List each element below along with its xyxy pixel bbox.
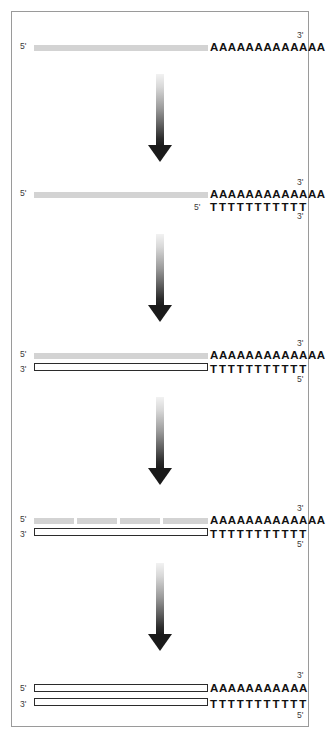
panel-double-stranded-cdna: 5' AAAAAAAAAAA 3' 3' TTTTTTTTTTT 5' bbox=[12, 673, 308, 723]
rna-fragment bbox=[77, 518, 117, 524]
oligo-dt-primer-bases: TTTTTTTTTTT bbox=[210, 202, 308, 214]
poly-a-bases: AAAAAAAAAAAAA bbox=[210, 515, 326, 527]
end-label-3prime-right: 3' bbox=[297, 178, 303, 187]
poly-a-bases: AAAAAAAAAAAAA bbox=[210, 350, 326, 362]
panel-first-strand-cdna-synthesis: 5' AAAAAAAAAAAAA 3' 3' TTTTTTTTTTT 5' bbox=[12, 339, 308, 389]
cdna-poly-t-bases: TTTTTTTTTTT bbox=[210, 529, 308, 541]
end-label-5prime-left: 5' bbox=[20, 684, 26, 693]
primer-end-label-3prime: 3' bbox=[297, 212, 303, 221]
arrow-shaft bbox=[156, 74, 164, 146]
panel-oligo-dt-primer-annealing: 5' AAAAAAAAAAAAA 3' 5' TTTTTTTTTTT 3' bbox=[12, 178, 308, 228]
poly-a-bases: AAAAAAAAAAAAA bbox=[210, 189, 326, 201]
arrow-head bbox=[148, 145, 172, 162]
rna-fragment bbox=[34, 518, 74, 524]
cdna-end-label-5prime: 5' bbox=[297, 711, 303, 720]
process-arrow-3 bbox=[148, 397, 172, 485]
cdna-poly-t-bases: TTTTTTTTTTT bbox=[210, 364, 308, 376]
rna-strand-bar bbox=[34, 45, 208, 51]
poly-a-bases: AAAAAAAAAAA bbox=[210, 683, 308, 695]
process-arrow-4 bbox=[148, 563, 172, 651]
end-label-5prime-left: 5' bbox=[20, 42, 26, 51]
arrow-head bbox=[148, 468, 172, 485]
end-label-3prime-right: 3' bbox=[297, 671, 303, 680]
cdna-end-label-5prime: 5' bbox=[297, 375, 303, 384]
rna-strand-bar bbox=[34, 192, 208, 198]
panel-rna-template-nicking: 5' AAAAAAAAAAAAA 3' 3' TTTTTTTTTTT 5' bbox=[12, 504, 308, 554]
poly-a-bases: AAAAAAAAAAAAA bbox=[210, 42, 326, 54]
rna-fragment bbox=[120, 518, 160, 524]
cdna-end-label-3prime: 3' bbox=[20, 700, 26, 709]
end-label-5prime-left: 5' bbox=[20, 515, 26, 524]
end-label-3prime-right: 3' bbox=[297, 339, 303, 348]
end-label-5prime-left: 5' bbox=[20, 189, 26, 198]
rna-fragment bbox=[163, 518, 208, 524]
cdna-strand-bar-top bbox=[34, 684, 208, 692]
cdna-strand-bar bbox=[34, 528, 208, 536]
panel-mrna-template: 5' AAAAAAAAAAAAA 3' bbox=[12, 31, 308, 71]
end-label-5prime-left: 5' bbox=[20, 350, 26, 359]
cdna-strand-bar-bottom bbox=[34, 698, 208, 706]
rna-strand-bar bbox=[34, 353, 208, 359]
end-label-3prime-right: 3' bbox=[297, 31, 303, 40]
arrow-shaft bbox=[156, 563, 164, 635]
arrow-head bbox=[148, 634, 172, 651]
end-label-3prime-right: 3' bbox=[297, 504, 303, 513]
cdna-poly-t-bases: TTTTTTTTTTT bbox=[210, 699, 308, 711]
process-arrow-1 bbox=[148, 74, 172, 162]
arrow-shaft bbox=[156, 234, 164, 306]
cdna-end-label-3prime: 3' bbox=[20, 365, 26, 374]
figure-frame: 5' AAAAAAAAAAAAA 3' 5' AAAAAAAAAAAAA 3' … bbox=[11, 11, 309, 727]
cdna-end-label-3prime: 3' bbox=[20, 530, 26, 539]
arrow-shaft bbox=[156, 397, 164, 469]
primer-end-label-5prime: 5' bbox=[194, 203, 200, 212]
cdna-end-label-5prime: 5' bbox=[297, 540, 303, 549]
process-arrow-2 bbox=[148, 234, 172, 322]
cdna-strand-bar bbox=[34, 363, 208, 371]
arrow-head bbox=[148, 305, 172, 322]
